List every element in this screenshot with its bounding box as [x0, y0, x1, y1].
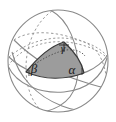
sphere-diagram-svg: γ β α: [0, 0, 116, 122]
angle-label-gamma: γ: [61, 42, 66, 54]
angle-label-beta: β: [30, 61, 38, 76]
angle-label-alpha: α: [69, 62, 77, 77]
spherical-triangle-figure: γ β α: [0, 0, 116, 122]
